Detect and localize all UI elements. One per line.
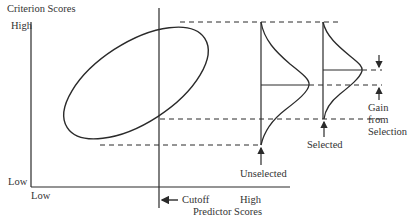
selected-distribution bbox=[323, 22, 362, 119]
cutoff-label: Cutoff bbox=[182, 194, 209, 206]
selection-diagram bbox=[0, 0, 408, 220]
gain-label-line-1: Gain bbox=[368, 102, 388, 114]
y-axis-title: Criterion Scores bbox=[7, 3, 76, 15]
unselected-label: Unselected bbox=[240, 168, 287, 180]
x-axis-low-label: Low bbox=[31, 190, 50, 202]
gain-label-line-3: Selection bbox=[368, 126, 407, 138]
selected-label: Selected bbox=[307, 139, 343, 151]
x-axis-title: Predictor Scores bbox=[193, 206, 262, 218]
y-axis-low-label: Low bbox=[8, 176, 27, 188]
unselected-distribution bbox=[261, 22, 309, 145]
gain-label-line-2: from bbox=[368, 114, 388, 126]
y-axis-high-label: High bbox=[11, 20, 32, 32]
scatter-ellipse bbox=[45, 5, 226, 161]
x-axis-high-label: High bbox=[240, 194, 261, 206]
